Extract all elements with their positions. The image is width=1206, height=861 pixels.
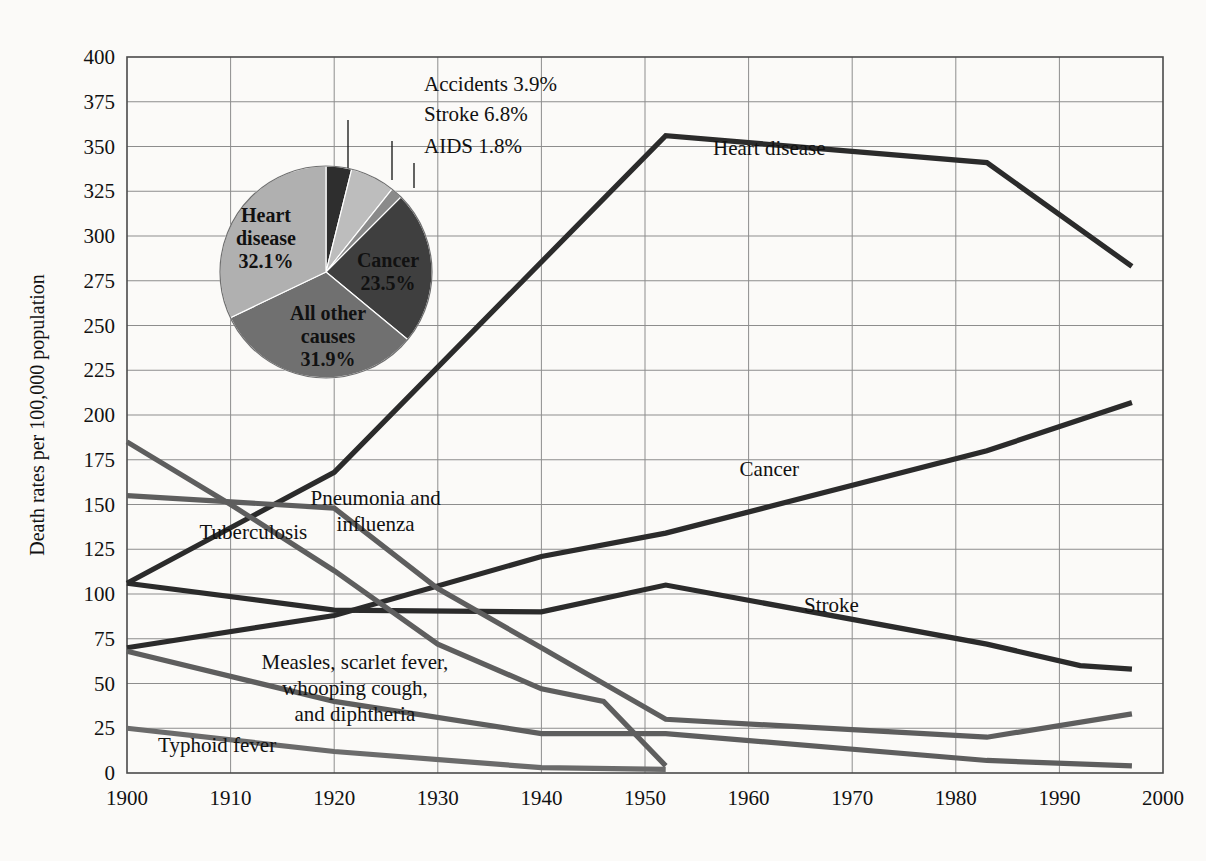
y-tick-label: 350 xyxy=(84,135,116,159)
y-tick-label: 175 xyxy=(84,448,116,472)
pie-callout-label-aids: AIDS 1.8% xyxy=(424,134,522,158)
y-tick-label: 75 xyxy=(94,627,115,651)
x-tick-label: 2000 xyxy=(1142,786,1184,810)
y-tick-label: 100 xyxy=(84,582,116,606)
y-tick-label: 275 xyxy=(84,269,116,293)
x-tick-label: 1970 xyxy=(831,786,873,810)
y-tick-label: 300 xyxy=(84,224,116,248)
pie-label-all-other-causes: All other xyxy=(290,302,366,324)
y-tick-label: 50 xyxy=(94,672,115,696)
pie-label-all-other-causes: causes xyxy=(301,325,356,347)
y-tick-label: 250 xyxy=(84,314,116,338)
y-tick-label: 25 xyxy=(94,716,115,740)
y-tick-label: 125 xyxy=(84,537,116,561)
y-tick-label: 0 xyxy=(105,761,116,785)
y-tick-label: 200 xyxy=(84,403,116,427)
x-tick-label: 1990 xyxy=(1038,786,1080,810)
series-label-pneumonia: Pneumonia and xyxy=(311,486,442,510)
series-label-cancer: Cancer xyxy=(740,457,799,481)
series-label-stroke: Stroke xyxy=(804,593,859,617)
chart-canvas: 4003753503253002752502252001751501251007… xyxy=(0,0,1206,861)
pie-label-cancer: Cancer xyxy=(357,249,419,271)
y-axis-title: Death rates per 100,000 population xyxy=(26,274,49,556)
pie-callout-label-stroke: Stroke 6.8% xyxy=(424,102,528,126)
y-tick-label: 225 xyxy=(84,358,116,382)
series-label-heart: Heart disease xyxy=(713,136,826,160)
pie-label-heart-disease: 32.1% xyxy=(239,250,294,272)
pie-label-cancer: 23.5% xyxy=(361,272,416,294)
x-tick-label: 1900 xyxy=(106,786,148,810)
series-label-measles: and diphtheria xyxy=(295,702,416,726)
y-tick-label: 400 xyxy=(84,45,116,69)
x-tick-label: 1960 xyxy=(728,786,770,810)
x-tick-label: 1950 xyxy=(624,786,666,810)
pie-label-heart-disease: disease xyxy=(236,227,296,249)
pie-label-all-other-causes: 31.9% xyxy=(301,348,356,370)
pie-callout-label-accidents: Accidents 3.9% xyxy=(424,72,557,96)
mortality-line-chart: 4003753503253002752502252001751501251007… xyxy=(0,0,1206,861)
y-tick-label: 375 xyxy=(84,90,116,114)
series-label-measles: whooping cough, xyxy=(282,676,428,700)
series-label-typhoid: Typhoid fever xyxy=(158,733,276,757)
series-label-tuberculosis: Tuberculosis xyxy=(200,520,308,544)
y-axis-label: Death rates per 100,000 population xyxy=(26,274,49,556)
x-tick-label: 1980 xyxy=(935,786,977,810)
series-label-measles: Measles, scarlet fever, xyxy=(261,650,448,674)
x-tick-label: 1940 xyxy=(520,786,562,810)
x-tick-label: 1910 xyxy=(210,786,252,810)
y-tick-label: 150 xyxy=(84,493,116,517)
x-tick-label: 1930 xyxy=(417,786,459,810)
series-label-pneumonia: influenza xyxy=(337,512,416,536)
pie-label-heart-disease: Heart xyxy=(241,204,291,226)
x-tick-label: 1920 xyxy=(313,786,355,810)
y-tick-label: 325 xyxy=(84,179,116,203)
